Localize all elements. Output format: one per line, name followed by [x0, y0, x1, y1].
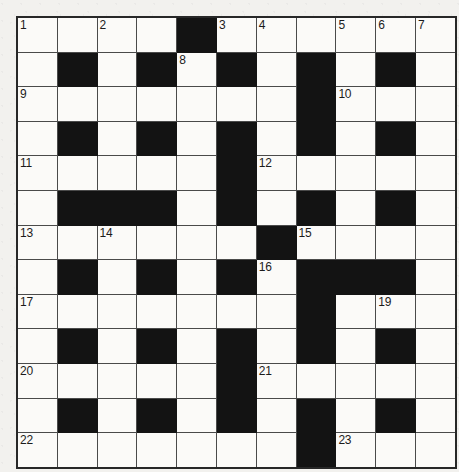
letter-cell[interactable] — [97, 363, 137, 398]
letter-cell[interactable] — [17, 260, 57, 295]
letter-cell[interactable] — [415, 225, 455, 260]
letter-cell[interactable] — [57, 363, 97, 398]
letter-cell[interactable] — [177, 156, 217, 191]
letter-cell[interactable] — [256, 329, 296, 364]
letter-cell[interactable] — [97, 52, 137, 87]
letter-cell[interactable]: 13 — [17, 225, 57, 260]
letter-cell[interactable]: 5 — [336, 17, 376, 52]
letter-cell[interactable] — [97, 121, 137, 156]
letter-cell[interactable] — [415, 156, 455, 191]
letter-cell[interactable]: 11 — [17, 156, 57, 191]
letter-cell[interactable] — [336, 156, 376, 191]
letter-cell[interactable]: 16 — [256, 260, 296, 295]
letter-cell[interactable] — [137, 433, 177, 468]
letter-cell[interactable]: 7 — [415, 17, 455, 52]
letter-cell[interactable] — [296, 156, 336, 191]
letter-cell[interactable]: 10 — [336, 87, 376, 122]
letter-cell[interactable] — [137, 156, 177, 191]
letter-cell[interactable] — [177, 225, 217, 260]
letter-cell[interactable] — [97, 260, 137, 295]
letter-cell[interactable] — [216, 87, 256, 122]
letter-cell[interactable] — [97, 329, 137, 364]
letter-cell[interactable] — [137, 225, 177, 260]
letter-cell[interactable]: 3 — [216, 17, 256, 52]
letter-cell[interactable] — [336, 121, 376, 156]
letter-cell[interactable] — [17, 52, 57, 87]
letter-cell[interactable] — [415, 190, 455, 225]
letter-cell[interactable] — [415, 329, 455, 364]
letter-cell[interactable] — [216, 225, 256, 260]
letter-cell[interactable] — [137, 87, 177, 122]
letter-cell[interactable] — [57, 87, 97, 122]
letter-cell[interactable] — [216, 294, 256, 329]
letter-cell[interactable] — [17, 398, 57, 433]
letter-cell[interactable] — [256, 87, 296, 122]
letter-cell[interactable] — [177, 398, 217, 433]
letter-cell[interactable] — [296, 17, 336, 52]
letter-cell[interactable]: 1 — [17, 17, 57, 52]
letter-cell[interactable] — [57, 156, 97, 191]
letter-cell[interactable] — [336, 329, 376, 364]
letter-cell[interactable]: 2 — [97, 17, 137, 52]
letter-cell[interactable] — [376, 156, 416, 191]
letter-cell[interactable] — [17, 190, 57, 225]
letter-cell[interactable] — [336, 363, 376, 398]
letter-cell[interactable]: 8 — [177, 52, 217, 87]
letter-cell[interactable]: 21 — [256, 363, 296, 398]
letter-cell[interactable] — [415, 87, 455, 122]
letter-cell[interactable]: 9 — [17, 87, 57, 122]
letter-cell[interactable] — [415, 52, 455, 87]
letter-cell[interactable] — [376, 87, 416, 122]
letter-cell[interactable] — [97, 87, 137, 122]
letter-cell[interactable] — [137, 294, 177, 329]
letter-cell[interactable] — [256, 52, 296, 87]
crossword-grid[interactable]: 12345678910111213141516171920212223 — [16, 16, 457, 469]
letter-cell[interactable] — [137, 17, 177, 52]
letter-cell[interactable] — [177, 190, 217, 225]
letter-cell[interactable]: 12 — [256, 156, 296, 191]
letter-cell[interactable]: 15 — [296, 225, 336, 260]
letter-cell[interactable] — [57, 433, 97, 468]
letter-cell[interactable] — [17, 329, 57, 364]
letter-cell[interactable] — [177, 433, 217, 468]
letter-cell[interactable] — [296, 363, 336, 398]
letter-cell[interactable] — [336, 190, 376, 225]
letter-cell[interactable] — [57, 17, 97, 52]
letter-cell[interactable] — [97, 398, 137, 433]
letter-cell[interactable]: 22 — [17, 433, 57, 468]
letter-cell[interactable] — [256, 294, 296, 329]
letter-cell[interactable] — [256, 398, 296, 433]
letter-cell[interactable] — [376, 225, 416, 260]
letter-cell[interactable]: 17 — [17, 294, 57, 329]
letter-cell[interactable]: 20 — [17, 363, 57, 398]
letter-cell[interactable]: 14 — [97, 225, 137, 260]
letter-cell[interactable] — [57, 225, 97, 260]
letter-cell[interactable] — [376, 363, 416, 398]
letter-cell[interactable] — [415, 121, 455, 156]
letter-cell[interactable] — [97, 156, 137, 191]
letter-cell[interactable] — [177, 121, 217, 156]
letter-cell[interactable] — [97, 433, 137, 468]
letter-cell[interactable] — [336, 294, 376, 329]
letter-cell[interactable] — [336, 398, 376, 433]
letter-cell[interactable] — [177, 294, 217, 329]
letter-cell[interactable] — [57, 294, 97, 329]
letter-cell[interactable]: 4 — [256, 17, 296, 52]
letter-cell[interactable] — [177, 260, 217, 295]
letter-cell[interactable] — [137, 363, 177, 398]
letter-cell[interactable] — [97, 294, 137, 329]
letter-cell[interactable]: 6 — [376, 17, 416, 52]
letter-cell[interactable]: 23 — [336, 433, 376, 468]
letter-cell[interactable] — [177, 329, 217, 364]
letter-cell[interactable] — [415, 433, 455, 468]
letter-cell[interactable] — [177, 363, 217, 398]
letter-cell[interactable] — [415, 260, 455, 295]
letter-cell[interactable] — [415, 398, 455, 433]
letter-cell[interactable]: 19 — [376, 294, 416, 329]
letter-cell[interactable] — [216, 433, 256, 468]
letter-cell[interactable] — [415, 363, 455, 398]
letter-cell[interactable] — [376, 433, 416, 468]
letter-cell[interactable] — [415, 294, 455, 329]
letter-cell[interactable] — [256, 190, 296, 225]
letter-cell[interactable] — [336, 225, 376, 260]
